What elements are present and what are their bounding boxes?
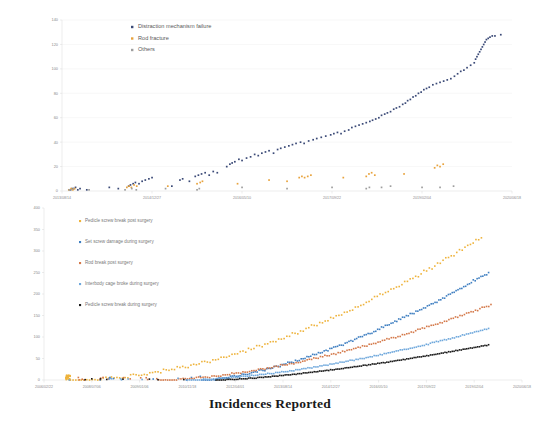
top-chart-y-tick: 40 — [54, 140, 59, 145]
bottom-chart-x-tick: 2020/06/18 — [513, 385, 531, 389]
bottom-legend-marker — [79, 283, 81, 285]
top-chart-y-tick: 20 — [54, 164, 59, 169]
bottom-legend-marker — [79, 220, 81, 222]
bottom-chart-y-tick: 0 — [38, 377, 41, 382]
top-chart-x-axis: 2013/08/142014/12/272016/05/102017/09/22… — [53, 191, 521, 200]
figure-title: Incidences Reported — [0, 396, 540, 412]
bottom-chart-x-tick: 2008/07/06 — [83, 385, 101, 389]
bottom-legend-marker — [79, 304, 81, 306]
bottom-chart-y-tick: 250 — [34, 270, 41, 275]
bottom-chart-x-tick: 2019/02/04 — [465, 385, 483, 389]
bottom-chart-y-tick: 100 — [34, 334, 41, 339]
top-series-rod-fracture — [68, 163, 444, 190]
top-chart-legend: Distraction mechanism failureRod fractur… — [131, 23, 211, 52]
bottom-line-chart: 050100150200250300350400 2006/02/222008/… — [0, 200, 540, 400]
top-chart-y-tick: 0 — [56, 188, 59, 193]
bottom-legend-marker — [79, 241, 81, 243]
top-legend-label: Rod fracture — [138, 35, 169, 41]
bottom-series-pedicle-screw-break-during-surgery — [84, 344, 489, 381]
bottom-legend-label: Rod break post surgery — [85, 260, 133, 265]
bottom-chart-x-tick: 2013/08/14 — [274, 385, 292, 389]
bottom-series-rod-break-post-surgery — [78, 304, 492, 381]
top-legend-marker — [131, 49, 133, 51]
bottom-chart-x-tick: 2010/11/18 — [179, 385, 197, 389]
top-chart-data-points — [68, 34, 502, 191]
bottom-chart-y-tick: 350 — [34, 227, 41, 232]
bottom-chart-y-tick: 50 — [36, 356, 41, 361]
bottom-chart-x-tick: 2016/05/10 — [370, 385, 388, 389]
top-legend-label: Distraction mechanism failure — [138, 23, 211, 29]
bottom-chart-x-tick: 2017/09/22 — [417, 385, 435, 389]
bottom-legend-label: Set screw damage during surgery — [85, 239, 154, 244]
bottom-chart-data-points — [65, 237, 492, 381]
top-chart-y-tick: 140 — [52, 17, 59, 22]
bottom-chart-y-tick: 300 — [34, 248, 41, 253]
bottom-legend-marker — [79, 262, 81, 264]
bottom-chart-legend: Pedicle screw break post surgerySet scre… — [79, 218, 160, 307]
top-chart-y-tick: 80 — [54, 91, 59, 96]
bottom-legend-label: Interbody cage broke during surgery — [85, 281, 160, 286]
bottom-legend-label: Pedicle screw break during surgery — [85, 302, 157, 307]
bottom-chart-y-tick: 150 — [34, 313, 41, 318]
top-legend-marker — [131, 26, 133, 28]
bottom-chart-x-tick: 2012/04/01 — [226, 385, 244, 389]
top-chart-y-tick: 100 — [52, 66, 59, 71]
top-chart-y-tick: 120 — [52, 42, 59, 47]
bottom-chart-x-axis: 2006/02/222008/07/062009/01/062010/11/18… — [35, 380, 531, 389]
bottom-chart-y-tick: 200 — [34, 291, 41, 296]
bottom-legend-label: Pedicle screw break post surgery — [85, 218, 153, 223]
top-scatter-chart: 020406080100120140 2013/08/142014/12/272… — [0, 0, 540, 212]
bottom-chart-y-tick: 400 — [34, 205, 41, 210]
top-chart-y-tick: 60 — [54, 115, 59, 120]
top-chart-gridlines — [62, 20, 512, 167]
bottom-chart-y-axis: 050100150200250300350400 — [34, 205, 45, 382]
bottom-chart-x-tick: 2009/01/06 — [131, 385, 149, 389]
bottom-chart-x-tick: 2014/12/27 — [322, 385, 340, 389]
top-chart-svg: 020406080100120140 2013/08/142014/12/272… — [0, 0, 540, 212]
top-series-distraction-mechanism-failure — [69, 34, 501, 191]
bottom-chart-svg: 050100150200250300350400 2006/02/222008/… — [0, 200, 540, 400]
top-legend-marker — [131, 37, 133, 39]
bottom-series-pedicle-screw-break-post-surgery — [65, 237, 482, 381]
bottom-chart-x-tick: 2006/02/22 — [35, 385, 53, 389]
bottom-series-interbody-cage-broke-during-surgery — [69, 328, 490, 381]
top-legend-label: Others — [138, 46, 155, 52]
top-chart-y-axis: 020406080100120140 — [52, 17, 63, 193]
